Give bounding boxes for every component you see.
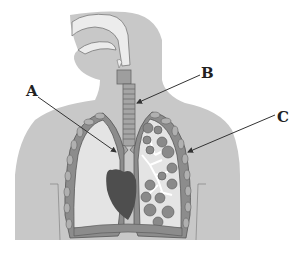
respiratory-diagram <box>0 0 305 253</box>
larynx <box>117 70 131 84</box>
trachea <box>123 84 135 146</box>
label-a: A <box>26 84 38 99</box>
label-b: B <box>201 66 214 81</box>
label-c: C <box>277 110 289 125</box>
